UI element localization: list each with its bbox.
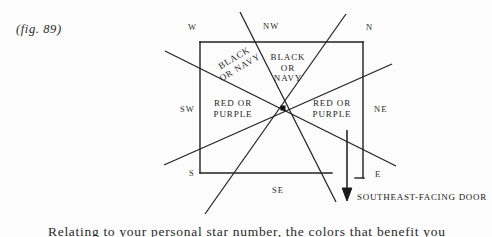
southeast-facing-door-caption: SOUTHEAST-FACING DOOR [357, 192, 487, 202]
zone-label-n-line-3: NAVY [260, 73, 316, 84]
direction-label-se: SE [272, 185, 284, 195]
zone-label-ne-line-2: PURPLE [305, 109, 359, 120]
direction-label-w: W [188, 22, 197, 32]
door-arrow-head [342, 188, 352, 201]
zone-label-n-line-1: BLACK [260, 52, 316, 63]
direction-label-n: N [366, 22, 373, 32]
zone-label-n: BLACK OR NAVY [260, 52, 316, 84]
figure-page: (fig. 89) [0, 0, 492, 237]
direction-label-e: E [375, 169, 381, 179]
zone-label-sw-line-1: RED OR [206, 98, 260, 109]
body-text-partial-line: Relating to your personal star number, t… [48, 224, 468, 237]
zone-label-sw-line-2: PURPLE [206, 109, 260, 120]
compass-center-dot [281, 106, 286, 111]
zone-label-sw: RED OR PURPLE [206, 98, 260, 119]
direction-label-ne: NE [374, 104, 388, 114]
zone-label-ne-line-1: RED OR [305, 98, 359, 109]
southeast-facing-door-arrow [342, 130, 352, 201]
direction-label-nw: NW [263, 21, 279, 31]
zone-label-ne: RED OR PURPLE [305, 98, 359, 119]
direction-label-s: S [189, 168, 195, 178]
zone-label-n-line-2: OR [260, 63, 316, 74]
direction-label-sw: SW [180, 104, 195, 114]
